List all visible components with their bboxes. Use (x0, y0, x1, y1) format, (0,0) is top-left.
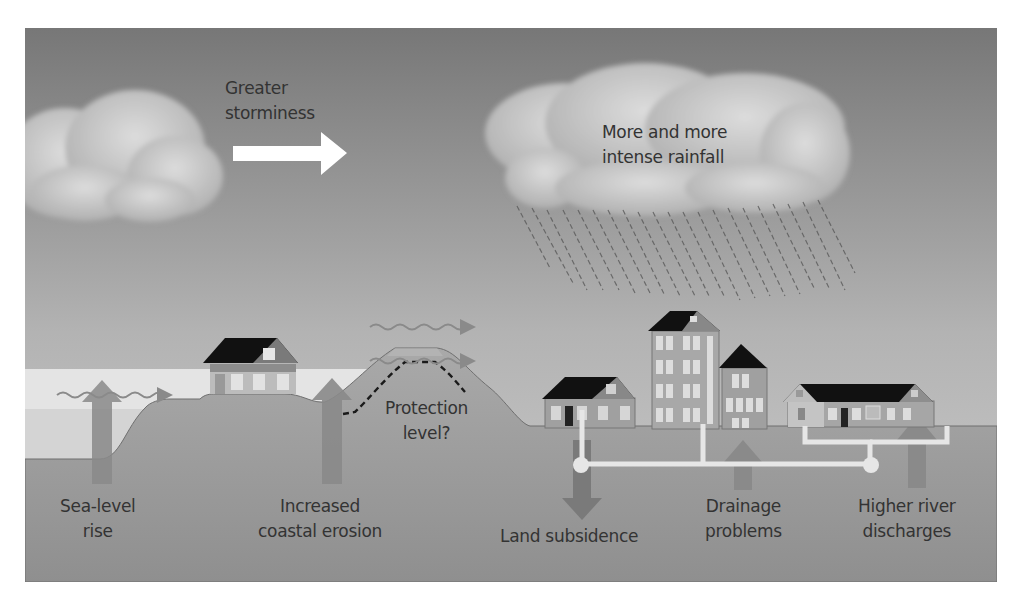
label-coastal-erosion: Increased coastal erosion (258, 494, 382, 544)
illustration (25, 28, 997, 582)
drain-junction-left (573, 457, 589, 473)
climate-impacts-diagram: Greater storminess More and more intense… (25, 28, 997, 582)
drain-junction-right (863, 457, 879, 473)
label-sea-level-rise: Sea-level rise (60, 494, 136, 544)
label-intense-rainfall: More and more intense rainfall (602, 120, 727, 170)
label-drainage-problems: Drainage problems (705, 494, 782, 544)
label-greater-storminess: Greater storminess (225, 76, 315, 126)
label-protection-level: Protection level? (385, 396, 468, 446)
label-land-subsidence: Land subsidence (500, 524, 638, 549)
label-river-discharges: Higher river discharges (858, 494, 956, 544)
house-long (783, 384, 934, 427)
